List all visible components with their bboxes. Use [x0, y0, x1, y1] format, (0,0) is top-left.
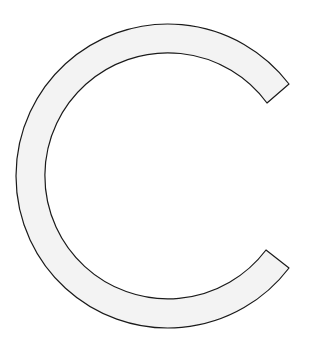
letter-c-shape: [16, 24, 289, 328]
letter-c-canvas: [0, 0, 312, 347]
